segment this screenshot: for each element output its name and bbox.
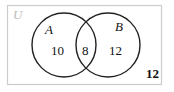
set-a-only-count: 10 bbox=[51, 44, 64, 57]
set-a-label: A bbox=[45, 23, 53, 36]
intersection-count: 8 bbox=[82, 44, 89, 57]
set-b-only-count: 12 bbox=[109, 44, 122, 57]
outside-count: 12 bbox=[146, 67, 159, 80]
set-b-label: B bbox=[115, 20, 123, 33]
universe-label: U bbox=[13, 8, 22, 21]
